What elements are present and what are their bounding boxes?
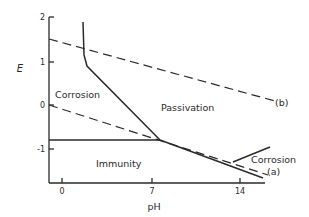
y-tick-2: 2 <box>40 13 45 22</box>
region-corrosion-left: Corrosion <box>55 89 100 100</box>
x-tick-0: 0 <box>59 187 64 196</box>
region-corrosion-right: Corrosion <box>251 154 296 165</box>
pourbaix-diagram: 2 1 0 -1 0 7 14 E pH Corrosion Passivati… <box>0 0 309 217</box>
line-label-a: (a) <box>267 166 280 177</box>
y-axis-label: E <box>17 63 24 74</box>
x-tick-14: 14 <box>235 187 245 196</box>
boundary-passivation-immunity <box>160 140 263 178</box>
x-axis-label: pH <box>147 201 160 212</box>
region-passivation: Passivation <box>161 102 214 113</box>
line-label-b: (b) <box>275 97 288 108</box>
x-tick-7: 7 <box>149 187 154 196</box>
boundary-corrosion-passivation <box>83 22 160 140</box>
axes <box>49 17 265 183</box>
region-immunity: Immunity <box>96 158 142 169</box>
y-tick-0: 0 <box>40 101 45 110</box>
y-tick-1: 1 <box>40 58 45 67</box>
y-tick-minus1: -1 <box>37 145 45 154</box>
